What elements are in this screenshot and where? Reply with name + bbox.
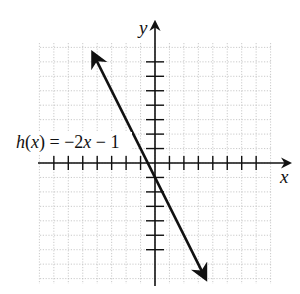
function-graph: y x h(x) = −2x − 1 <box>0 0 300 294</box>
y-axis-label: y <box>137 17 148 38</box>
function-line <box>93 53 206 278</box>
x-axis-label: x <box>279 166 289 187</box>
function-label: h(x) = −2x − 1 <box>16 132 119 153</box>
